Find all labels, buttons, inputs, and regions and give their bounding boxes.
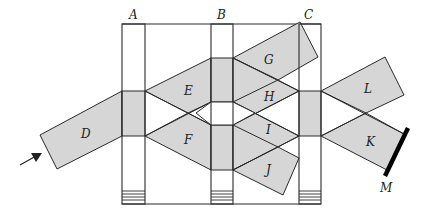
beam-f xyxy=(145,113,211,170)
label-c: C xyxy=(304,8,313,22)
label-l: L xyxy=(363,82,372,96)
label-h: H xyxy=(263,90,275,104)
plate-a-beam-region xyxy=(122,91,145,136)
label-a: A xyxy=(128,8,138,22)
label-i: I xyxy=(265,123,271,137)
label-g: G xyxy=(264,53,274,67)
label-e: E xyxy=(183,84,193,98)
optics-diagram: A B C D E F G H I J K L M xyxy=(0,0,422,215)
beam-l xyxy=(321,57,404,113)
plate-b-lower-beam-region xyxy=(211,125,233,170)
plate-b-upper-beam-region xyxy=(211,58,233,102)
label-k: K xyxy=(365,135,376,149)
label-d: D xyxy=(80,127,91,141)
plate-base-hatching xyxy=(122,191,321,200)
input-arrow-icon xyxy=(20,153,42,165)
plate-c-beam-region xyxy=(299,91,321,136)
label-b: B xyxy=(216,8,226,22)
beam-e xyxy=(145,58,211,113)
label-m: M xyxy=(379,181,393,195)
label-f: F xyxy=(183,133,193,147)
